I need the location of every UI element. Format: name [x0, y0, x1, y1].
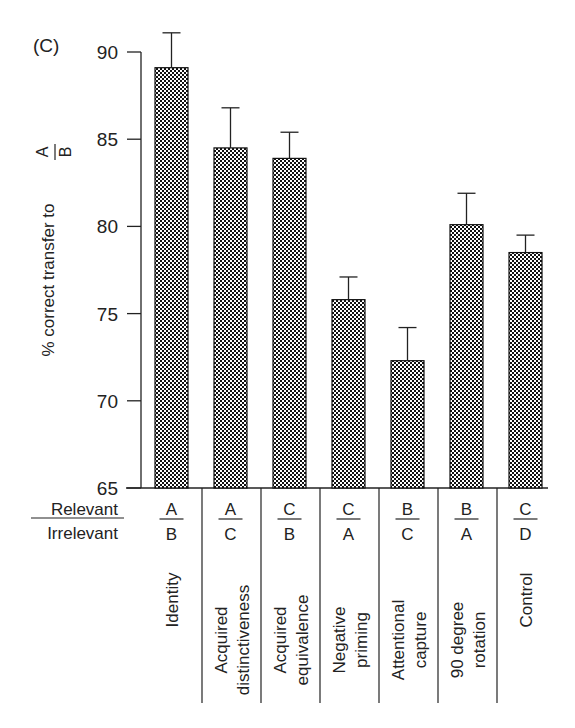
- y-tick-label: 65: [97, 478, 118, 499]
- svg-text:capture: capture: [411, 612, 430, 669]
- svg-text:distinctiveness: distinctiveness: [234, 585, 253, 696]
- bar: [450, 225, 483, 488]
- irrelevant-letter: D: [519, 525, 531, 544]
- irrelevant-letter: A: [343, 525, 355, 544]
- category-label: Acquiredequivalence: [271, 595, 312, 686]
- y-label-numerator: A: [34, 146, 51, 157]
- relevant-letter: A: [225, 500, 237, 519]
- irrelevant-header: Irrelevant: [47, 524, 118, 543]
- irrelevant-letter: A: [461, 525, 473, 544]
- x-axis-categories: ABIdentityACAcquireddistinctivenessCBAcq…: [160, 488, 538, 703]
- y-label-text: % correct transfer to: [39, 203, 58, 356]
- bar: [214, 148, 247, 488]
- category-label: Attentionalcapture: [389, 600, 430, 680]
- relevant-letter: B: [461, 500, 472, 519]
- svg-text:Acquired: Acquired: [271, 606, 290, 673]
- relevant-letter: C: [283, 500, 295, 519]
- bar: [155, 68, 188, 488]
- irrelevant-letter: B: [284, 525, 295, 544]
- y-tick-label: 90: [97, 42, 118, 63]
- relevant-letter: C: [519, 500, 531, 519]
- bars: [155, 33, 542, 488]
- svg-text:Acquired: Acquired: [212, 606, 231, 673]
- relevant-letter: C: [342, 500, 354, 519]
- category-label: Negativepriming: [330, 606, 371, 673]
- category-label: 90 degreerotation: [448, 602, 489, 679]
- bar: [273, 158, 306, 488]
- irrelevant-letter: B: [166, 525, 177, 544]
- y-tick-label: 85: [97, 129, 118, 150]
- y-label-denominator: B: [57, 147, 74, 158]
- svg-text:equivalence: equivalence: [293, 595, 312, 686]
- svg-text:Control: Control: [517, 573, 536, 628]
- row-header: Relevant Irrelevant: [31, 500, 124, 543]
- relevant-header: Relevant: [51, 500, 118, 519]
- svg-text:priming: priming: [352, 612, 371, 668]
- irrelevant-letter: C: [224, 525, 236, 544]
- y-tick-label: 70: [97, 391, 118, 412]
- svg-text:90 degree: 90 degree: [448, 602, 467, 679]
- bar: [509, 253, 542, 488]
- relevant-letter: A: [166, 500, 178, 519]
- bar: [391, 361, 424, 488]
- y-tick-label: 80: [97, 216, 118, 237]
- bar-chart: (C) 657075808590 % correct transfer toAB…: [0, 0, 575, 728]
- category-label: Acquireddistinctiveness: [212, 585, 253, 696]
- svg-text:Negative: Negative: [330, 606, 349, 673]
- bar: [332, 300, 365, 488]
- svg-text:Identity: Identity: [163, 572, 182, 627]
- panel-label: (C): [33, 35, 59, 56]
- irrelevant-letter: C: [401, 525, 413, 544]
- relevant-letter: B: [402, 500, 413, 519]
- svg-text:Attentional: Attentional: [389, 600, 408, 680]
- y-axis-label: % correct transfer toAB: [34, 144, 74, 357]
- category-label: Control: [517, 573, 536, 628]
- category-label: Identity: [163, 572, 182, 627]
- svg-text:rotation: rotation: [470, 612, 489, 669]
- y-tick-label: 75: [97, 304, 118, 325]
